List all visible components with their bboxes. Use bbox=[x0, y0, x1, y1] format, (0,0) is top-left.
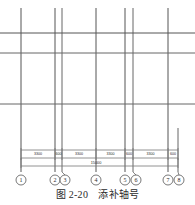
dim-label-4-5: 3300 bbox=[107, 152, 115, 156]
dim-label-7-8: 600 bbox=[170, 152, 176, 156]
dim-label-3-4: 3300 bbox=[75, 152, 83, 156]
axis-bubble-1[interactable]: 1 bbox=[16, 175, 26, 185]
dimension-total-row: 15000 bbox=[21, 158, 178, 168]
axis-bubble-6[interactable]: 6 bbox=[131, 175, 141, 185]
dim-label-total: 15000 bbox=[91, 161, 102, 165]
leader-line-6 bbox=[133, 172, 136, 175]
axis-bubbles: 1 2 3 4 5 6 7 8 bbox=[16, 175, 184, 185]
leader-line-8 bbox=[178, 172, 179, 175]
axis-bubble-label-1: 1 bbox=[20, 177, 23, 183]
axis-bubble-label-3: 3 bbox=[64, 177, 67, 183]
dim-label-6-7: 3300 bbox=[147, 152, 155, 156]
figure-caption-number: 图 2-20 bbox=[56, 189, 89, 200]
architectural-grid-drawing: 3300 600 3300 3300 600 3300 600 15000 1 … bbox=[0, 0, 195, 205]
axis-bubble-label-6: 6 bbox=[135, 177, 138, 183]
dim-label-2-3: 600 bbox=[56, 152, 62, 156]
dimension-chain-segments: 3300 600 3300 3300 600 3300 600 bbox=[21, 148, 178, 160]
axis-bubble-4[interactable]: 4 bbox=[91, 175, 101, 185]
leader-line-3 bbox=[62, 172, 65, 175]
axis-bubble-label-2: 2 bbox=[54, 177, 57, 183]
axis-bubble-8[interactable]: 8 bbox=[174, 175, 184, 185]
axis-bubble-label-5: 5 bbox=[124, 177, 127, 183]
axis-bubble-label-7: 7 bbox=[167, 177, 170, 183]
axis-bubble-label-8: 8 bbox=[178, 177, 181, 183]
axis-bubble-3[interactable]: 3 bbox=[60, 175, 70, 185]
horizontal-grid-lines bbox=[0, 33, 195, 104]
dim-label-1-2: 3300 bbox=[34, 152, 42, 156]
axis-bubble-7[interactable]: 7 bbox=[163, 175, 173, 185]
axis-bubble-2[interactable]: 2 bbox=[50, 175, 60, 185]
figure-caption-title: 添补轴号 bbox=[98, 189, 139, 200]
bubble-leader-lines bbox=[62, 172, 179, 175]
dim-label-5-6: 600 bbox=[126, 152, 132, 156]
axis-bubble-5[interactable]: 5 bbox=[120, 175, 130, 185]
axis-bubble-label-4: 4 bbox=[95, 177, 98, 183]
figure-caption: 图 2-20添补轴号 bbox=[0, 186, 195, 201]
